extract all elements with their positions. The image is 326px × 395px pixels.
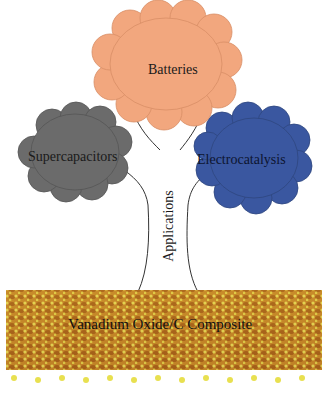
label-supercapacitors: Supercapacitors [28,149,117,165]
vanadium-oxide-lattice [6,290,322,383]
label-vanadium-oxide: Vanadium Oxide/C Composite [68,316,252,333]
label-applications: Applications [161,181,177,271]
label-batteries: Batteries [148,62,198,78]
label-electrocatalysis: Electrocatalysis [197,152,286,168]
